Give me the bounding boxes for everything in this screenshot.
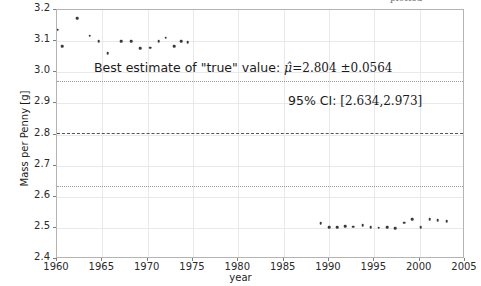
x-tick-label: 2005 — [451, 261, 476, 272]
plot-area — [56, 9, 464, 258]
x-tick-label: 1970 — [134, 261, 159, 272]
y-tick-mark — [53, 227, 56, 228]
data-point — [180, 40, 183, 43]
y-tick-mark — [53, 165, 56, 166]
x-tick-label: 1995 — [361, 261, 386, 272]
data-point — [97, 40, 100, 43]
data-point — [394, 227, 397, 230]
gridline-horizontal — [57, 197, 463, 198]
ci-interval-values: [2.634,2.973] — [340, 94, 422, 108]
data-point — [120, 40, 123, 43]
x-tick-label: 1960 — [43, 261, 68, 272]
x-tick-label: 1990 — [315, 261, 340, 272]
gridline-horizontal — [57, 228, 463, 229]
annotation-best-estimate: Best estimate of "true" value: μ̂=2.804 … — [94, 60, 393, 75]
annotation-confidence-interval: 95% CI: [2.634,2.973] — [288, 93, 422, 108]
data-point — [361, 224, 364, 227]
gridline-horizontal — [57, 166, 463, 167]
x-axis-title: year — [0, 272, 481, 283]
data-point — [369, 226, 372, 229]
data-point — [344, 225, 347, 228]
data-point — [76, 17, 79, 20]
x-tick-label: 1965 — [89, 261, 114, 272]
x-tick-label: 1975 — [179, 261, 204, 272]
data-point — [328, 226, 331, 229]
data-point — [419, 226, 422, 229]
data-point — [130, 40, 133, 43]
x-tick-label: 1980 — [225, 261, 250, 272]
y-axis-title: Mass per Penny [g] — [19, 59, 30, 219]
y-tick-mark — [53, 102, 56, 103]
y-tick-mark — [53, 134, 56, 135]
x-tick-label: 1985 — [270, 261, 295, 272]
data-point — [320, 222, 323, 225]
data-point — [446, 220, 449, 223]
data-point — [56, 28, 58, 31]
data-point — [139, 47, 142, 50]
y-tick-mark — [53, 258, 56, 259]
y-tick-mark — [53, 196, 56, 197]
data-point — [378, 226, 381, 229]
reference-line-ci-upper — [57, 81, 463, 82]
data-point — [386, 226, 389, 229]
gridline-horizontal — [57, 135, 463, 136]
figure-canvas: plotted 19601965197019751980198519901995… — [0, 0, 481, 286]
data-point — [149, 46, 152, 49]
data-point — [352, 225, 355, 228]
x-tick-label: 2000 — [406, 261, 431, 272]
data-point — [186, 41, 189, 44]
data-point — [403, 222, 406, 225]
data-point — [88, 34, 91, 37]
data-point — [411, 218, 414, 221]
data-point — [428, 218, 431, 221]
annotation-best-estimate-text: Best estimate of "true" value: — [94, 60, 284, 75]
mu-equation: =2.804 ±0.0564 — [292, 61, 392, 75]
data-point — [61, 45, 64, 48]
cutoff-fragment-plotted: plotted — [390, 0, 422, 3]
y-tick-mark — [53, 9, 56, 10]
reference-line-mean — [57, 133, 463, 134]
data-point — [437, 219, 440, 222]
data-point — [106, 52, 109, 55]
data-point — [173, 45, 176, 48]
data-point — [157, 40, 160, 43]
y-tick-mark — [53, 40, 56, 41]
data-point — [336, 226, 339, 229]
reference-line-ci-lower — [57, 186, 463, 187]
y-tick-mark — [53, 71, 56, 72]
gridline-horizontal — [57, 41, 463, 42]
ci-label: 95% CI: — [288, 93, 340, 108]
data-point — [165, 36, 168, 39]
